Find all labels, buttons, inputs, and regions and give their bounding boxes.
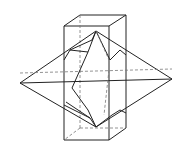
figure	[0, 0, 186, 152]
bipyramid	[20, 31, 172, 127]
prism-bipyramid-drawing	[0, 0, 186, 152]
